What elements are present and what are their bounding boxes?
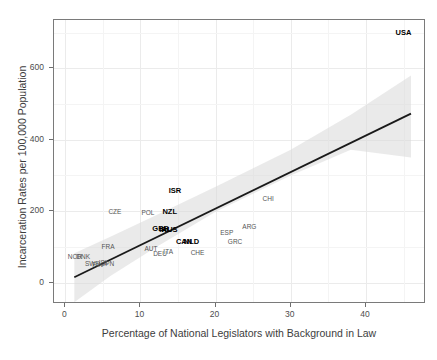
y-tick-label: 400: [0, 134, 44, 143]
point-label-chi: CHI: [263, 196, 274, 203]
point-label-ita: ITA: [163, 249, 173, 256]
point-label-esp: ESP: [220, 230, 233, 237]
x-tick-label: 30: [285, 310, 294, 319]
point-label-aus: AUS: [162, 226, 178, 234]
point-label-cze: CZE: [108, 209, 121, 216]
x-tick-label: 0: [62, 310, 67, 319]
x-tick-label: 40: [360, 310, 369, 319]
plot-panel: USACHIISRNZLPOLCZEARGESPGRCGBRIRLAUSCANN…: [53, 19, 425, 303]
confidence-band: [74, 75, 411, 302]
x-tick: [215, 303, 216, 307]
regression-line: [74, 114, 411, 278]
x-axis-title: Percentage of National Legislators with …: [53, 327, 425, 339]
point-label-isr: ISR: [169, 187, 182, 195]
x-tick: [290, 303, 291, 307]
point-label-jpn: JPN: [102, 261, 114, 268]
y-tick: [49, 139, 53, 140]
point-label-che: CHE: [191, 249, 205, 256]
x-tick-label: 10: [135, 310, 144, 319]
x-tick: [139, 303, 140, 307]
chart-figure: Incarceration Rates per 100,000 Populati…: [0, 0, 437, 360]
point-label-nld: NLD: [184, 238, 199, 246]
y-tick: [49, 210, 53, 211]
plot-surface: USACHIISRNZLPOLCZEARGESPGRCGBRIRLAUSCANN…: [54, 20, 424, 302]
x-tick: [365, 303, 366, 307]
x-tick: [64, 303, 65, 307]
y-tick: [49, 282, 53, 283]
point-label-pol: POL: [141, 209, 154, 216]
point-label-arg: ARG: [242, 224, 256, 231]
point-label-grc: GRC: [228, 239, 242, 246]
point-label-usa: USA: [396, 29, 412, 37]
x-tick-label: 20: [210, 310, 219, 319]
point-label-fra: FRA: [102, 244, 115, 251]
y-tick-label: 200: [0, 206, 44, 215]
y-tick-label: 0: [0, 277, 44, 286]
point-label-nzl: NZL: [162, 208, 177, 216]
y-tick: [49, 67, 53, 68]
y-tick-label: 600: [0, 63, 44, 72]
